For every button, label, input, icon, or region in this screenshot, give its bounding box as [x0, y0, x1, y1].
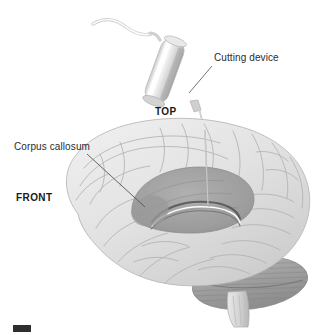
device-body — [141, 33, 188, 109]
label-front-orientation: FRONT — [16, 192, 52, 204]
label-top-orientation: TOP — [155, 106, 177, 118]
anatomical-illustration — [0, 0, 327, 335]
device-cable — [93, 20, 151, 35]
figure-canvas: Cutting device Corpus callosum TOP FRONT — [0, 0, 327, 335]
figure-label-mark — [13, 325, 31, 332]
label-cutting-device: Cutting device — [214, 52, 279, 64]
brainstem — [227, 291, 249, 327]
device-cable-highlight — [93, 20, 151, 35]
surgical-cutting-device-group — [93, 20, 205, 133]
device-cable-joint — [150, 33, 160, 40]
leader-line-cutting-device — [189, 66, 212, 93]
brain-group — [66, 118, 312, 327]
label-corpus-callosum: Corpus callosum — [14, 141, 90, 153]
